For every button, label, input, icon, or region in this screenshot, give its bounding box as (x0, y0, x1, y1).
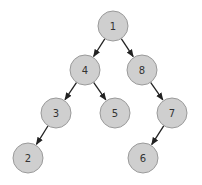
edge-4-to-3 (65, 82, 77, 99)
node-label: 6 (140, 153, 146, 164)
node-label: 4 (82, 65, 88, 76)
tree-node-1: 1 (98, 11, 128, 41)
tree-diagram: 14835726 (0, 0, 202, 185)
node-label: 1 (110, 21, 116, 32)
edge-1-to-8 (121, 39, 133, 57)
tree-node-2: 2 (13, 143, 43, 173)
node-label: 3 (53, 108, 59, 119)
tree-node-4: 4 (70, 55, 100, 85)
edges-layer (36, 39, 163, 145)
edge-1-to-4 (94, 39, 105, 57)
node-label: 8 (139, 65, 145, 76)
edge-8-to-7 (151, 82, 163, 100)
node-label: 5 (112, 108, 118, 119)
tree-node-5: 5 (100, 98, 130, 128)
node-label: 2 (25, 153, 31, 164)
edge-4-to-5 (94, 82, 106, 100)
tree-node-3: 3 (41, 98, 71, 128)
edge-3-to-2 (36, 126, 48, 145)
edge-7-to-6 (152, 126, 164, 145)
tree-node-6: 6 (128, 143, 158, 173)
tree-node-8: 8 (127, 55, 157, 85)
tree-node-7: 7 (157, 98, 187, 128)
node-label: 7 (169, 108, 175, 119)
